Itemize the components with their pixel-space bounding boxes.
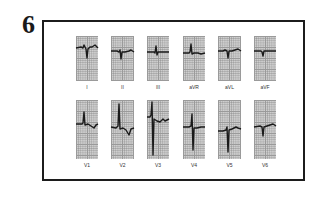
lead-label: aVR [174,84,214,90]
lead-label: III [138,84,178,90]
ecg-waveform [147,100,169,159]
ecg-waveform [147,36,169,81]
ecg-waveform [218,36,241,81]
lead-label: aVF [245,84,285,90]
ecg-waveform [254,100,276,159]
ecg-waveform [183,36,205,81]
ecg-lead-avl [218,36,241,81]
ecg-lead-avr [183,36,205,81]
lead-label: V2 [103,162,143,168]
ecg-lead-i [76,36,98,81]
ecg-lead-ii [111,36,134,81]
ecg-waveform [111,36,134,81]
ecg-lead-v1 [76,100,98,159]
lead-label: V3 [138,162,178,168]
ecg-lead-v3 [147,100,169,159]
lead-label: I [67,84,107,90]
ecg-lead-v5 [218,100,241,159]
lead-label: aVL [210,84,250,90]
lead-label: II [103,84,143,90]
ecg-waveform [183,100,205,159]
lead-label: V5 [210,162,250,168]
ecg-lead-v6 [254,100,276,159]
ecg-waveform [111,100,134,159]
ecg-waveform [254,36,276,81]
lead-label: V4 [174,162,214,168]
ecg-lead-iii [147,36,169,81]
ecg-lead-v2 [111,100,134,159]
ecg-waveform [218,100,241,159]
ecg-lead-v4 [183,100,205,159]
ecg-lead-avf [254,36,276,81]
lead-label: V6 [245,162,285,168]
figure-number: 6 [22,12,35,38]
ecg-waveform [76,100,98,159]
ecg-waveform [76,36,98,81]
lead-label: V1 [67,162,107,168]
